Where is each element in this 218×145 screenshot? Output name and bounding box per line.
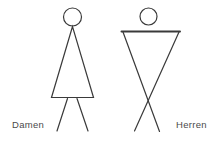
restroom-signs-panel: Damen Herren <box>0 0 218 145</box>
men-label: Herren <box>176 119 207 130</box>
women-label: Damen <box>12 119 44 130</box>
women-dress-icon <box>52 27 94 98</box>
men-symbol <box>122 8 181 132</box>
men-head-icon <box>140 8 157 25</box>
women-right-leg-icon <box>77 99 88 132</box>
women-head-icon <box>64 8 82 26</box>
women-left-leg-icon <box>57 99 68 132</box>
women-symbol <box>52 8 94 131</box>
